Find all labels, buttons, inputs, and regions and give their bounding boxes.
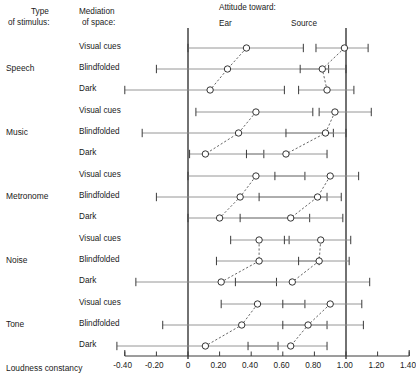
data-point-ear [216, 215, 222, 221]
data-point-ear [235, 130, 241, 136]
data-point-source [288, 343, 294, 349]
data-point-ear [253, 109, 259, 115]
data-point-source [327, 173, 333, 179]
data-point-ear [239, 322, 245, 328]
data-point-source [319, 66, 325, 72]
data-point-source [332, 109, 338, 115]
data-point-source [289, 279, 295, 285]
data-point-source [283, 151, 289, 157]
data-point-source [314, 194, 320, 200]
data-point-ear [253, 173, 259, 179]
data-point-source [341, 45, 347, 51]
data-point-ear [202, 151, 208, 157]
data-point-source [324, 87, 330, 93]
data-point-ear [243, 45, 249, 51]
data-point-ear [256, 237, 262, 243]
data-point-source [318, 237, 324, 243]
data-point-source [288, 215, 294, 221]
data-point-source [316, 258, 322, 264]
data-point-source [322, 130, 328, 136]
data-point-ear [256, 258, 262, 264]
data-point-ear [237, 194, 243, 200]
data-point-source [327, 301, 333, 307]
data-point-ear [207, 87, 213, 93]
data-point-ear [202, 343, 208, 349]
data-point-ear [218, 279, 224, 285]
data-point-source [305, 322, 311, 328]
data-point-ear [254, 301, 260, 307]
data-point-ear [224, 66, 230, 72]
